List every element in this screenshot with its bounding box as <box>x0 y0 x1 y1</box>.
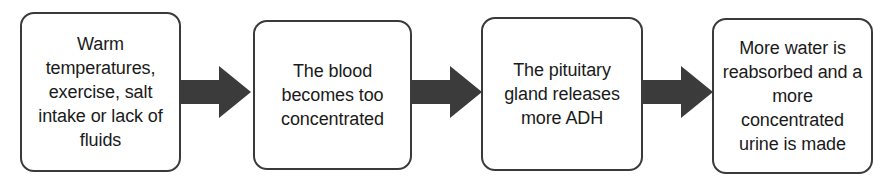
arrow-right-icon <box>410 66 482 118</box>
arrow-right-icon <box>641 66 713 118</box>
flow-node-pituitary-adh: The pituitary gland releases more ADH <box>481 17 643 171</box>
flow-node-stimulus: Warm temperatures, exercise, salt intake… <box>20 12 181 172</box>
flowchart: Warm temperatures, exercise, salt intake… <box>0 0 889 192</box>
flow-node-label: More water is reabsorbed and a more conc… <box>720 36 865 156</box>
flow-node-label: The blood becomes too concentrated <box>261 59 404 131</box>
flow-node-blood-concentrated: The blood becomes too concentrated <box>253 20 412 170</box>
flow-node-water-reabsorbed: More water is reabsorbed and a more conc… <box>712 18 873 174</box>
arrow-right-icon <box>179 66 251 118</box>
flow-node-label: The pituitary gland releases more ADH <box>489 58 635 130</box>
flow-node-label: Warm temperatures, exercise, salt intake… <box>28 32 173 152</box>
